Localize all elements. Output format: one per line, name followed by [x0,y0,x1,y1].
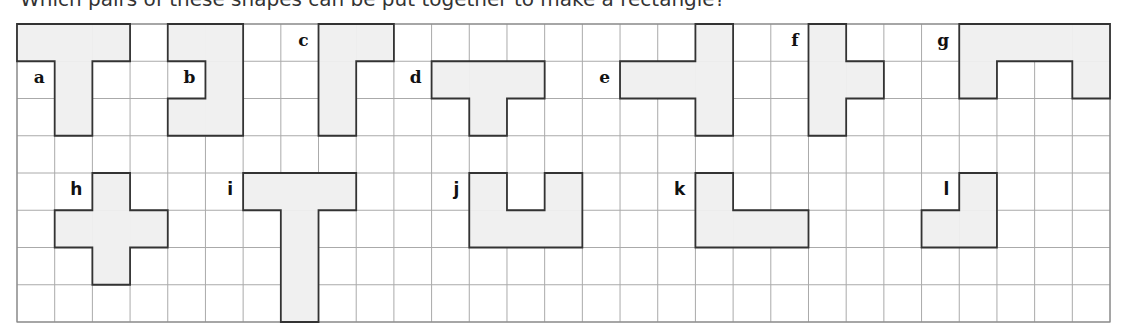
shape-cell [545,173,583,211]
shape-cell [168,99,206,137]
shape-cell [469,173,507,211]
shape-cell [771,210,809,248]
shape-cell [695,173,733,211]
shape-cell [281,173,319,211]
shape-cell [205,24,243,62]
shape-cell [92,210,130,248]
shape-cell [55,24,93,62]
shape-label: i [227,179,233,199]
shape-j: j [452,173,582,248]
shape-label: c [298,30,308,50]
shape-cell [469,99,507,137]
shape-a: a [17,24,131,136]
shape-cell [469,210,507,248]
shape-cell [92,173,130,211]
shape-grid: abcdefghijkl [0,0,1122,332]
shape-label: b [184,67,196,87]
shape-cell [92,248,130,286]
shape-cell [356,24,394,62]
shape-cell [695,61,733,99]
shape-l: l [922,173,998,248]
shape-cell [92,24,130,62]
shape-label: l [943,179,949,199]
shape-cell [620,61,658,99]
shape-cell [432,61,470,99]
shape-cell [319,24,357,62]
shape-cell [55,99,93,137]
shape-label: f [791,30,800,50]
shape-label: g [937,30,949,50]
shape-cell [205,99,243,137]
shape-cell [959,173,997,211]
shape-cell [695,210,733,248]
shape-cell [733,210,771,248]
shape-label: a [34,67,45,87]
shape-cell [959,24,997,62]
shape-cell [959,210,997,248]
shape-c: c [298,24,394,136]
shape-cell [168,24,206,62]
shape-cell [808,24,846,62]
shape-cell [281,210,319,248]
shape-cell [55,210,93,248]
shape-cell [1035,24,1073,62]
shape-cell [1072,24,1110,62]
shape-cell [695,99,733,137]
shape-label: j [452,179,459,199]
shape-cell [55,61,93,99]
shape-cell [545,210,583,248]
shape-cell [130,210,168,248]
shape-cell [695,24,733,62]
shape-cell [281,248,319,286]
shape-cell [959,61,997,99]
shape-cell [922,210,960,248]
shape-cell [319,173,357,211]
shape-cell [507,210,545,248]
shape-f: f [791,24,884,136]
shape-label: h [70,179,82,199]
shape-cell [17,24,55,62]
shape-label: d [410,67,422,87]
shape-e: e [599,24,733,136]
shape-cell [281,285,319,323]
shape-h: h [55,173,169,285]
shape-b: b [168,24,244,136]
shape-cell [319,99,357,137]
shape-cell [808,61,846,99]
shape-cell [507,61,545,99]
shape-label: k [674,179,686,199]
shape-cell [243,173,281,211]
shape-cell [846,61,884,99]
shape-cell [1072,61,1110,99]
shape-cell [205,61,243,99]
shape-cell [808,99,846,137]
shape-label: e [599,67,610,87]
shape-cell [469,61,507,99]
shape-cell [658,61,696,99]
shape-cell [997,24,1035,62]
shape-g: g [937,24,1110,99]
shape-cell [319,61,357,99]
